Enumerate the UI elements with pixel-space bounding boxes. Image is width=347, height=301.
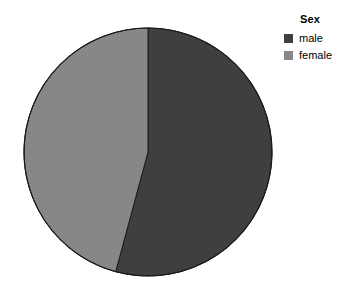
legend-swatch-male [283, 33, 294, 44]
legend-label-female: female [299, 49, 332, 62]
legend-swatch-female [283, 50, 294, 61]
legend-title: Sex [283, 13, 345, 26]
legend: Sex male female [283, 13, 345, 64]
legend-label-male: male [299, 32, 323, 45]
legend-item-female[interactable]: female [283, 47, 345, 63]
legend-item-male[interactable]: male [283, 30, 345, 46]
pie-chart-figure: Sex male female [0, 0, 347, 301]
